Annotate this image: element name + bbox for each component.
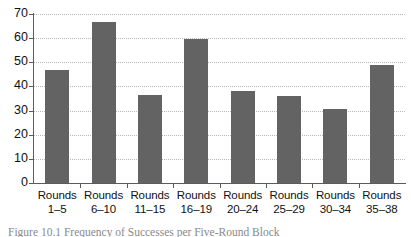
- x-axis-category-label-line2: 20–24: [220, 203, 266, 217]
- bar: [45, 70, 69, 183]
- x-axis-category-label-line2: 35–38: [359, 203, 405, 217]
- y-axis-tick: [29, 183, 34, 184]
- x-axis-tick: [312, 183, 313, 188]
- bar-chart: 010203040506070 Rounds1–5Rounds6–10Round…: [0, 0, 411, 237]
- x-axis-category-label-line1: Rounds: [312, 189, 358, 203]
- bar: [231, 91, 255, 183]
- x-axis-category-label: Rounds20–24: [220, 189, 266, 216]
- y-axis-tick: [29, 86, 34, 87]
- x-axis-tick: [266, 183, 267, 188]
- y-axis-tick-label: 40: [2, 80, 28, 91]
- bar: [138, 95, 162, 183]
- gridline: [34, 62, 405, 63]
- x-axis-category-label: Rounds6–10: [80, 189, 126, 216]
- x-axis-category-label-line2: 1–5: [34, 203, 80, 217]
- bar: [92, 22, 116, 183]
- bar: [277, 96, 301, 183]
- x-axis-category-label-line1: Rounds: [359, 189, 405, 203]
- plot-area: [34, 14, 405, 183]
- x-axis-category-label: Rounds25–29: [266, 189, 312, 216]
- y-axis-tick-label: 0: [2, 177, 28, 188]
- x-axis-category-label-line1: Rounds: [80, 189, 126, 203]
- x-axis-category-label-line2: 16–19: [173, 203, 219, 217]
- x-axis-category-label: Rounds1–5: [34, 189, 80, 216]
- bar: [323, 109, 347, 183]
- bar: [184, 39, 208, 183]
- y-axis-tick-label: 20: [2, 129, 28, 140]
- y-axis-tick: [29, 135, 34, 136]
- x-axis-category-label-line1: Rounds: [220, 189, 266, 203]
- y-axis-tick-label: 30: [2, 105, 28, 116]
- y-axis-tick: [29, 111, 34, 112]
- x-axis-category-label-line2: 11–15: [127, 203, 173, 217]
- y-axis-tick-label: 60: [2, 32, 28, 43]
- x-axis-category-label: Rounds16–19: [173, 189, 219, 216]
- y-axis-tick: [29, 62, 34, 63]
- gridline: [34, 135, 405, 136]
- x-axis-tick: [359, 183, 360, 188]
- bar: [370, 65, 394, 183]
- x-axis-category-label-line1: Rounds: [34, 189, 80, 203]
- x-axis-category-label: Rounds30–34: [312, 189, 358, 216]
- x-axis-tick: [173, 183, 174, 188]
- y-axis-tick-label: 70: [2, 8, 28, 19]
- gridline: [34, 86, 405, 87]
- gridline: [34, 14, 405, 15]
- gridline: [34, 159, 405, 160]
- x-axis-tick: [80, 183, 81, 188]
- x-axis-category-label-line2: 6–10: [80, 203, 126, 217]
- figure-caption: Figure 10.1 Frequency of Successes per F…: [8, 226, 408, 237]
- y-axis-tick-label: 50: [2, 56, 28, 67]
- x-axis-category-label-line2: 30–34: [312, 203, 358, 217]
- x-axis-category-label-line1: Rounds: [173, 189, 219, 203]
- x-axis-tick: [220, 183, 221, 188]
- x-axis-labels: Rounds1–5Rounds6–10Rounds11–15Rounds16–1…: [34, 189, 405, 223]
- x-axis-category-label: Rounds35–38: [359, 189, 405, 216]
- gridline: [34, 111, 405, 112]
- x-axis-category-label: Rounds11–15: [127, 189, 173, 216]
- y-axis-tick: [29, 159, 34, 160]
- x-axis-category-label-line1: Rounds: [266, 189, 312, 203]
- x-axis-category-label-line1: Rounds: [127, 189, 173, 203]
- x-axis-tick: [127, 183, 128, 188]
- y-axis-tick-label: 10: [2, 153, 28, 164]
- y-axis-tick: [29, 38, 34, 39]
- x-axis-category-label-line2: 25–29: [266, 203, 312, 217]
- y-axis-tick: [29, 14, 34, 15]
- gridline: [34, 38, 405, 39]
